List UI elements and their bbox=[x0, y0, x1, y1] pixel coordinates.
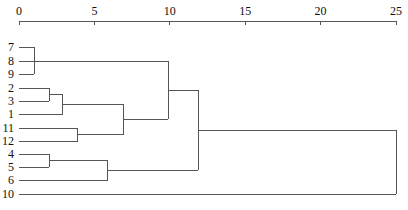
leaf-label: 3 bbox=[8, 94, 14, 108]
leaf-label: 11 bbox=[2, 121, 14, 135]
tick-label: 0 bbox=[16, 4, 22, 18]
leaf-label: 8 bbox=[8, 54, 14, 68]
leaf-label: 7 bbox=[8, 40, 14, 54]
x-axis: 0510152025 bbox=[16, 4, 402, 25]
leaf-label: 9 bbox=[8, 67, 14, 81]
tick-label: 20 bbox=[315, 4, 327, 18]
leaf-labels: 789231111245610 bbox=[2, 40, 14, 201]
dendrogram-branches bbox=[19, 47, 396, 194]
tick-label: 15 bbox=[239, 4, 251, 18]
tick-label: 25 bbox=[390, 4, 402, 18]
leaf-label: 2 bbox=[8, 81, 14, 95]
leaf-label: 12 bbox=[2, 134, 14, 148]
leaf-label: 10 bbox=[2, 187, 14, 201]
dendrogram-chart: 0510152025 789231111245610 bbox=[0, 0, 408, 210]
leaf-label: 4 bbox=[8, 147, 14, 161]
leaf-label: 6 bbox=[8, 173, 14, 187]
tick-label: 5 bbox=[91, 4, 97, 18]
leaf-label: 5 bbox=[8, 160, 14, 174]
tick-label: 10 bbox=[164, 4, 176, 18]
leaf-label: 1 bbox=[8, 107, 14, 121]
